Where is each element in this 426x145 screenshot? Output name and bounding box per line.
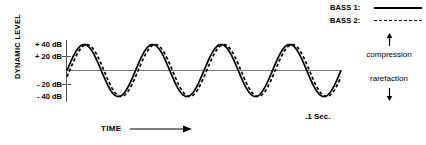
compression-label: compression — [352, 50, 426, 59]
duration-label: .1 Sec. — [305, 112, 330, 121]
arrow-down-icon — [385, 88, 394, 101]
waveform-diagram: BASS 1: BASS 2: DYNAMIC LEVEL + 40 dB + … — [0, 0, 426, 145]
waveform-plot — [0, 0, 426, 145]
arrow-up-icon — [385, 33, 394, 46]
x-axis-title: TIME — [101, 124, 121, 133]
bass-1-waveform-line — [67, 45, 341, 97]
rarefaction-label: rarefaction — [352, 74, 426, 83]
arrow-right-icon — [130, 124, 192, 134]
